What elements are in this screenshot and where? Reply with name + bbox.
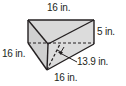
right-height-label: 5 in. [97,27,115,37]
top-length-label: 16 in. [47,3,70,13]
triangle-height-label: 13.9 in. [77,57,108,67]
left-side-label: 16 in. [2,49,25,59]
bottom-side-label: 16 in. [54,73,77,83]
front-vertical-edge [47,44,48,70]
